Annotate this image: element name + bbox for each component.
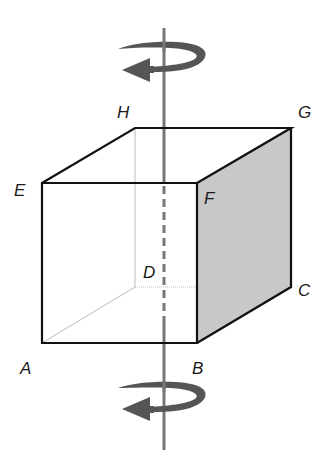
vertex-label-H: H — [117, 103, 130, 122]
axis-overlay-bottom — [163, 382, 166, 392]
vertex-label-B: B — [192, 359, 203, 378]
vertex-label-E: E — [14, 181, 26, 200]
vertex-label-A: A — [19, 359, 31, 378]
front-face-ABFE — [42, 183, 197, 343]
vertex-label-C: C — [298, 281, 311, 300]
shaded-face-BCGF — [197, 128, 291, 343]
cube-diagram: A B C D E F G H — [0, 0, 330, 464]
vertex-label-D: D — [143, 263, 155, 282]
vertex-label-G: G — [298, 103, 311, 122]
top-rotation-arrow-icon — [118, 42, 206, 82]
axis-overlay-top — [163, 42, 166, 52]
bottom-rotation-arrow-icon — [118, 382, 206, 421]
vertex-label-F: F — [204, 189, 216, 208]
edge-DA — [42, 287, 135, 343]
